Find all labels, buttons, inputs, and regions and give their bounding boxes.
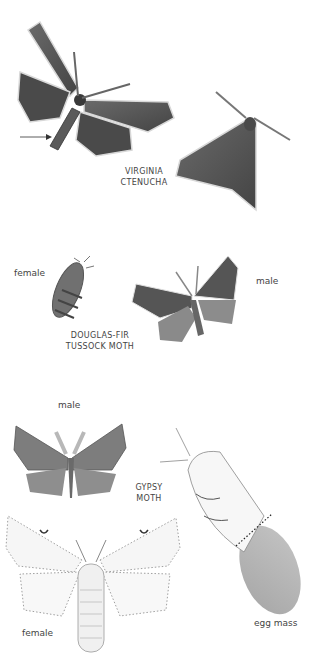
gypsy-name-line-1: GYPSY [124, 482, 174, 493]
ctenucha-name-line-1: VIRGINIA [104, 166, 184, 177]
tussock-female-label: female [14, 268, 45, 279]
tussock-male-label: male [256, 276, 278, 287]
tussock-male [132, 256, 238, 342]
gypsy-egg-mass [160, 428, 312, 623]
tussock-name-line-2: TUSSOCK MOTH [60, 341, 140, 352]
tussock-female [46, 256, 94, 321]
gypsy-male-label: male [58, 400, 80, 411]
gypsy-male [14, 424, 126, 498]
gypsy-name-line-2: MOTH [124, 493, 174, 504]
virginia-ctenucha-resting [176, 92, 290, 210]
virginia-ctenucha-spread [18, 22, 174, 156]
egg-mass-label: egg mass [254, 618, 297, 629]
tussock-name-line-1: DOUGLAS-FIR [60, 330, 140, 341]
gypsy-female-label: female [22, 628, 53, 639]
ctenucha-name-line-2: CTENUCHA [104, 177, 184, 188]
moth-illustration-plate: VIRGINIA CTENUCHA female male DOUGLAS-FI… [0, 0, 316, 660]
moth-drawings [0, 0, 316, 660]
